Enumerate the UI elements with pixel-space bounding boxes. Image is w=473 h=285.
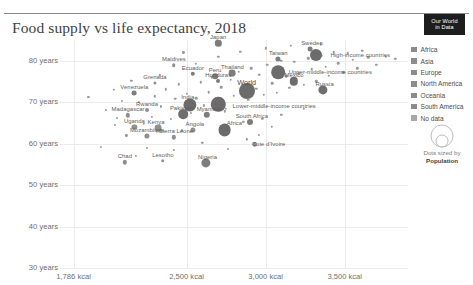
data-point[interactable] [242,121,244,123]
legend-item-africa[interactable]: Africa [411,44,463,55]
data-point[interactable] [190,111,192,113]
data-point[interactable] [100,145,102,147]
data-point[interactable] [126,113,130,117]
data-point[interactable] [337,62,340,65]
our-world-in-data-logo[interactable]: Our World in Data [424,14,465,35]
data-point[interactable] [161,159,165,163]
data-point[interactable] [271,82,274,85]
x-axis-tick-label: 1,786 kcal [56,272,91,281]
region-legend[interactable]: AfricaAsiaEuropeNorth AmericaOceaniaSout… [411,44,463,124]
data-point[interactable] [87,96,89,98]
data-point[interactable] [160,105,162,107]
data-point[interactable] [204,112,210,118]
data-point[interactable] [375,64,377,66]
data-point[interactable] [123,160,127,164]
legend-swatch-icon [411,70,417,76]
data-point[interactable] [191,72,195,76]
data-point[interactable] [146,147,148,149]
legend-swatch-icon [411,104,417,110]
aggregate-data-point[interactable] [310,49,322,61]
data-point[interactable] [154,95,156,97]
data-point[interactable] [276,92,278,94]
x-gridline [266,40,267,268]
data-point[interactable] [307,57,310,60]
logo-line-2: in Data [424,24,465,31]
data-point[interactable] [195,97,198,100]
data-point[interactable] [266,64,269,67]
data-point-label: Mexico [285,72,304,78]
legend-item-north-america[interactable]: North America [411,78,463,89]
aggregate-data-point[interactable] [271,66,285,80]
data-point[interactable] [258,133,260,135]
scatter-plot-area[interactable]: High-income countriesUpper-middle-income… [60,40,408,268]
legend-item-label: Asia [421,58,434,65]
data-point[interactable] [288,87,290,89]
data-point[interactable] [247,119,253,125]
data-point-label: Sierra Leone [159,128,193,134]
data-point[interactable] [165,88,167,90]
data-point[interactable] [237,70,240,73]
data-point[interactable] [170,118,172,120]
data-point[interactable] [130,79,132,81]
legend-item-oceania[interactable]: Oceania [411,90,463,101]
data-point[interactable] [290,45,292,47]
data-point[interactable] [105,109,107,111]
data-point[interactable] [121,100,123,102]
size-legend-caption: Dots sized by [423,149,460,156]
data-point[interactable] [230,78,233,81]
legend-item-asia[interactable]: Asia [411,55,463,66]
data-point[interactable] [233,95,235,97]
data-point[interactable] [200,81,202,83]
data-point[interactable] [220,86,223,89]
data-point[interactable] [172,135,176,139]
data-point[interactable] [116,117,118,119]
data-point[interactable] [151,116,153,118]
data-point[interactable] [113,89,115,91]
data-point[interactable] [293,60,296,63]
legend-item-south-america[interactable]: South America [411,101,463,112]
data-point[interactable] [182,51,184,53]
data-point-label: Ecuador [182,65,204,71]
y-gridline [60,144,408,145]
data-point[interactable] [114,124,116,126]
legend-item-label: North America [421,80,463,87]
data-point[interactable] [145,108,149,112]
data-point[interactable] [255,88,257,90]
data-point[interactable] [250,67,253,70]
x-gridline [74,40,75,268]
data-point[interactable] [324,65,327,68]
data-point[interactable] [280,59,283,62]
data-point[interactable] [153,82,156,85]
data-point[interactable] [351,59,354,62]
data-point[interactable] [239,50,241,52]
data-point[interactable] [144,134,149,139]
legend-swatch-icon [411,58,417,64]
data-point[interactable] [172,63,176,67]
data-point[interactable] [280,113,282,115]
data-point[interactable] [125,134,127,136]
data-point[interactable] [308,47,313,52]
data-point[interactable] [215,40,221,46]
legend-item-europe[interactable]: Europe [411,67,463,78]
data-point-label: Venezuela [120,84,148,90]
data-point-label: Maldives [162,56,186,62]
data-point[interactable] [271,126,273,128]
data-point[interactable] [207,91,210,94]
data-point-label: South Africa [236,113,268,119]
data-point[interactable] [258,74,261,77]
data-point[interactable] [290,77,298,85]
data-point[interactable] [302,84,304,86]
data-point[interactable] [177,83,179,85]
y-axis-tick-label: 60 years [29,139,58,148]
legend-swatch-icon [411,115,417,121]
data-point[interactable] [132,91,137,96]
data-point[interactable] [216,79,220,83]
data-point[interactable] [174,98,177,101]
data-point-label: Angola [186,121,205,127]
data-point[interactable] [135,155,137,157]
data-point[interactable] [225,108,227,110]
data-point[interactable] [217,55,219,57]
data-point[interactable] [223,110,225,112]
data-point[interactable] [227,148,229,150]
data-point[interactable] [245,138,247,140]
